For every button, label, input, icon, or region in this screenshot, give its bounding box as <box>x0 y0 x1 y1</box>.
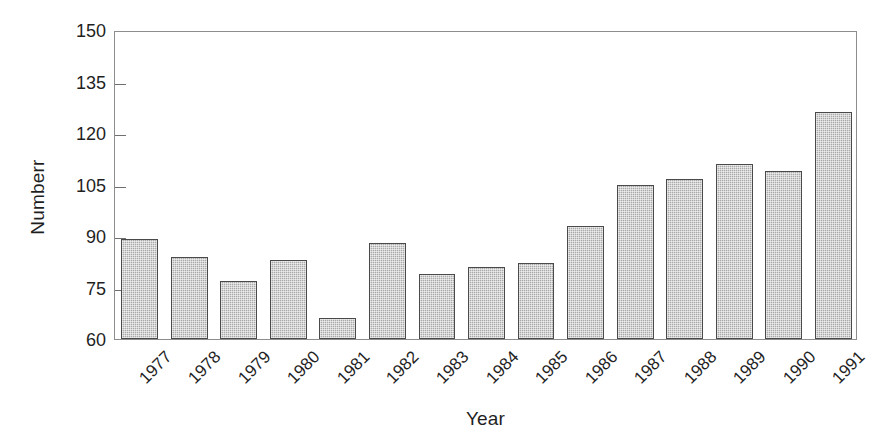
bar <box>220 281 257 339</box>
x-axis-title: Year <box>114 408 857 430</box>
y-axis-tick-label: 120 <box>60 125 106 143</box>
x-axis-tick-label: 1989 <box>730 348 769 387</box>
x-axis-tick-label: 1988 <box>681 348 720 387</box>
x-axis-tick-label: 1986 <box>582 348 621 387</box>
bar <box>567 226 604 339</box>
x-axis-tick-label: 1980 <box>284 348 323 387</box>
bar <box>369 243 406 339</box>
x-axis-tick-label: 1979 <box>235 348 274 387</box>
y-axis-title: Numberr <box>27 97 49 297</box>
plot-area <box>114 31 857 340</box>
bar <box>171 257 208 339</box>
y-axis-tick-label: 135 <box>60 74 106 92</box>
x-axis-tick-label: 1983 <box>433 348 472 387</box>
bar <box>270 260 307 339</box>
x-axis-tick-label: 1984 <box>483 348 522 387</box>
bar <box>765 171 802 339</box>
y-axis-tick-label: 60 <box>60 331 106 349</box>
bar <box>716 164 753 339</box>
bar <box>319 318 356 339</box>
bar-series <box>115 32 856 339</box>
x-axis-tick-label: 1982 <box>384 348 423 387</box>
bar-chart-figure: Numberr 607590105120135150 1977197819791… <box>0 0 890 448</box>
bar <box>468 267 505 339</box>
y-axis-tick-label: 90 <box>60 228 106 246</box>
x-axis-tick-label: 1985 <box>532 348 571 387</box>
bar <box>617 185 654 340</box>
y-axis-tick-label: 75 <box>60 280 106 298</box>
y-axis-tick-labels: 607590105120135150 <box>60 0 106 448</box>
y-axis-tick-label: 150 <box>60 22 106 40</box>
x-axis-tick-label: 1977 <box>136 348 175 387</box>
bar <box>666 179 703 339</box>
y-axis-tick-label: 105 <box>60 177 106 195</box>
bar <box>518 263 555 339</box>
bar <box>815 112 852 339</box>
x-axis-tick-label: 1987 <box>631 348 670 387</box>
bar <box>121 239 158 339</box>
bar <box>419 274 456 339</box>
x-axis-tick-label: 1981 <box>334 348 373 387</box>
x-axis-tick-labels: 1977197819791980198119821983198419851986… <box>114 340 857 400</box>
x-axis-tick-label: 1991 <box>829 348 868 387</box>
x-axis-tick-label: 1990 <box>780 348 819 387</box>
x-axis-tick-label: 1978 <box>185 348 224 387</box>
